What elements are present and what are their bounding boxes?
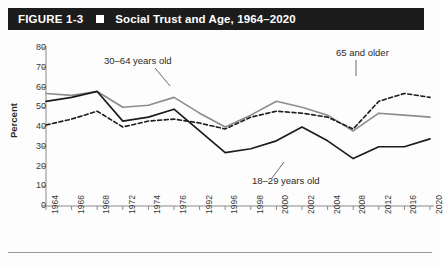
x-tick-label: 1996 (229, 195, 239, 214)
x-tick-label: 1966 (76, 195, 86, 214)
x-axis-tick-labels: 1964196619681972197419761992199619982000… (0, 206, 440, 256)
y-tick-label: 30 (26, 142, 46, 151)
figure-number-label: FIGURE 1-3 (18, 13, 83, 25)
x-tick-label: 1992 (204, 195, 214, 214)
x-tick-label: 1968 (101, 195, 111, 214)
series-annotation-label: 30–64 years old (104, 55, 172, 66)
x-tick-label: 1998 (255, 195, 265, 214)
series-line (46, 91, 430, 131)
y-tick-label: 60 (26, 83, 46, 92)
x-tick-label: 1964 (50, 195, 60, 214)
chart-series-lines (46, 91, 430, 158)
figure-title-bar: FIGURE 1-3 Social Trust and Age, 1964–20… (8, 8, 424, 30)
y-axis-title: Percent (8, 103, 19, 138)
x-tick-label: 2008 (357, 195, 367, 214)
chart-axes (42, 46, 434, 210)
x-tick-label: 2004 (332, 195, 342, 214)
x-tick-label: 1974 (152, 195, 162, 214)
y-tick-label: 50 (26, 102, 46, 111)
x-tick-label: 2012 (383, 195, 393, 214)
y-tick-label: 20 (26, 162, 46, 171)
series-annotation-label: 65 and older (336, 47, 389, 58)
y-tick-label: 40 (26, 122, 46, 131)
x-tick-label: 1976 (178, 195, 188, 214)
x-tick-label: 2002 (306, 195, 316, 214)
figure-bottom-rule (8, 252, 432, 253)
y-tick-label: 10 (26, 181, 46, 190)
figure-title-text: Social Trust and Age, 1964–2020 (115, 13, 295, 25)
x-tick-label: 1972 (127, 195, 137, 214)
series-annotation-label: 18–29 years old (252, 175, 320, 186)
x-tick-label: 2000 (280, 195, 290, 214)
x-tick-label: 2020 (434, 195, 444, 214)
chart-plot-area: Percent 80706050403020100 19641966196819… (0, 34, 440, 256)
x-tick-label: 2016 (408, 195, 418, 214)
y-tick-label: 70 (26, 63, 46, 72)
y-tick-label: 80 (26, 43, 46, 52)
series-line (46, 91, 430, 158)
square-bullet-icon (96, 15, 104, 23)
